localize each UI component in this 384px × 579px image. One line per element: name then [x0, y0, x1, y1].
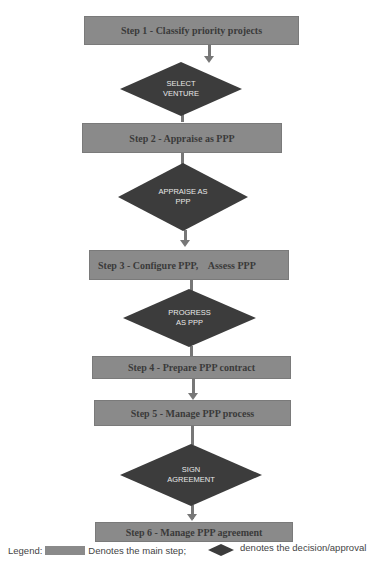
legend-step-text: Denotes the main step;: [88, 545, 186, 556]
legend-prefix: Legend:: [8, 545, 42, 556]
decision-label: SELECT VENTURE: [120, 62, 242, 116]
step-label: Step 5 - Manage PPP process: [131, 408, 254, 419]
decision-3: PROGRESS AS PPP: [123, 289, 256, 347]
step-3: Step 3 - Configure PPP, Assess PPP: [89, 250, 289, 280]
decision-1: SELECT VENTURE: [120, 62, 242, 116]
step-5: Step 5 - Manage PPP process: [94, 400, 291, 426]
arrowhead: [180, 240, 190, 247]
legend: Legend: Denotes the main step; denotes t…: [8, 544, 366, 556]
step-label: Step 6 - Manage PPP agreement: [126, 527, 263, 538]
decision-label: APPRAISE AS PPP: [118, 163, 248, 231]
step-1: Step 1 - Classify priority projects: [84, 16, 299, 45]
decision-label: PROGRESS AS PPP: [123, 289, 256, 347]
step-6: Step 6 - Manage PPP agreement: [95, 522, 293, 542]
step-label: Step 1 - Classify priority projects: [121, 25, 262, 36]
step-2: Step 2 - Appraise as PPP: [82, 123, 282, 153]
step-label: Step 2 - Appraise as PPP: [129, 133, 234, 144]
step-swatch-icon: [45, 546, 85, 555]
decision-label: SIGN AGREEMENT: [120, 444, 262, 506]
step-label: Step 3 - Configure PPP, Assess PPP: [98, 260, 256, 271]
decision-4: SIGN AGREEMENT: [120, 444, 262, 506]
decision-2: APPRAISE AS PPP: [118, 163, 248, 231]
step-label: Step 4 - Prepare PPP contract: [128, 362, 255, 373]
diamond-legend-icon: [208, 544, 234, 556]
connector: [191, 425, 194, 445]
connector: [190, 346, 193, 356]
arrowhead: [187, 514, 197, 521]
step-4: Step 4 - Prepare PPP contract: [92, 356, 291, 379]
arrowhead: [188, 393, 198, 400]
legend-decision-text: denotes the decision/approval: [240, 542, 366, 553]
